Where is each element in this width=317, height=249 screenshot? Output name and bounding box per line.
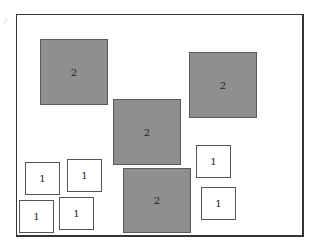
box-label: 1 — [210, 156, 216, 167]
corner-mark: / — [4, 16, 7, 25]
small-box: 1 — [196, 145, 231, 178]
box-label: 2 — [154, 195, 160, 206]
box-label: 1 — [215, 198, 221, 209]
small-box: 1 — [67, 159, 102, 192]
box-label: 2 — [220, 80, 226, 91]
small-box: 1 — [19, 200, 54, 233]
large-box: 2 — [123, 168, 191, 233]
box-label: 1 — [39, 173, 45, 184]
large-box: 2 — [189, 52, 257, 118]
box-label: 1 — [33, 211, 39, 222]
box-label: 2 — [71, 67, 77, 78]
large-box: 2 — [40, 39, 108, 105]
box-label: 1 — [73, 208, 79, 219]
large-box: 2 — [113, 99, 181, 165]
box-label: 1 — [81, 170, 87, 181]
small-box: 1 — [201, 187, 236, 220]
box-label: 2 — [144, 127, 150, 138]
small-box: 1 — [25, 162, 60, 195]
small-box: 1 — [59, 197, 94, 230]
